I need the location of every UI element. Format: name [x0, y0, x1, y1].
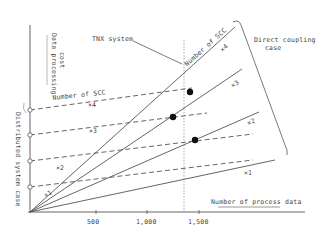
- dashed-label-x4: ×4: [88, 101, 96, 109]
- intersection-dot-x2: [192, 137, 198, 143]
- dashed-label-x2: ×2: [56, 164, 64, 172]
- y-axis-marker-x2: [28, 159, 32, 163]
- tnx-system-label: TNX system: [92, 35, 133, 43]
- intersection-dot-x4: [187, 89, 193, 95]
- solid-line-x2: [30, 112, 259, 212]
- solid-label-x1: ×1: [244, 169, 252, 177]
- y-axis-marker-x1: [28, 185, 32, 189]
- x-tick-label-500: 500: [87, 218, 99, 226]
- direct-coupling-label-line2: case: [265, 44, 281, 52]
- y-axis-marker-x3: [28, 133, 32, 137]
- y-axis-label-lower: Distributed system case: [14, 112, 22, 207]
- dashed-label-x3: ×3: [89, 127, 97, 135]
- x-tick-label-1000: 1,000: [136, 218, 157, 226]
- y-axis-label-upper-line1: Data processing: [50, 33, 58, 95]
- x-axis-label: Number of process data: [211, 198, 302, 206]
- solid-line-x3: [30, 69, 242, 212]
- direct-coupling-label-line1: Direct coupling: [254, 36, 316, 44]
- y-axis-break: [23, 103, 26, 113]
- dashed-line-x2: [30, 134, 253, 161]
- tnx-leader-line: [133, 41, 182, 64]
- x-tick-label-1500: 1,500: [188, 218, 209, 226]
- intersection-dot-x3: [170, 114, 176, 120]
- y-axis-marker-x4: [28, 108, 32, 112]
- y-axis-label-upper-line2: cost: [58, 52, 66, 68]
